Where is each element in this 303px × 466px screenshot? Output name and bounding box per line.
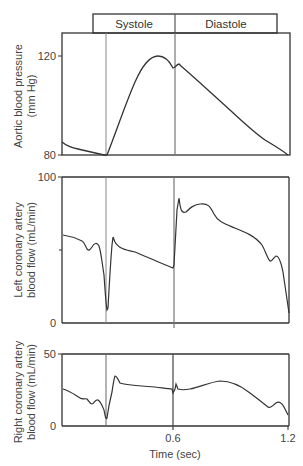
svg-text:(mm Hg): (mm Hg) [25, 75, 37, 118]
right-coronary-flow-curve [63, 376, 288, 419]
y-tick-label-top: 120 [38, 50, 56, 62]
svg-text:Left coronary artery: Left coronary artery [12, 202, 24, 298]
svg-text:Right coronary artery: Right coronary artery [12, 340, 24, 443]
panel-frame [62, 33, 290, 155]
y-axis-label: Left coronary artery blood flow (mL/min) [12, 202, 37, 298]
y-axis-label: Aortic blood pressure (mm Hg) [12, 44, 37, 148]
left-coronary-flow-panel: 100 0 Left coronary artery blood flow (m… [12, 171, 289, 329]
y-tick-label-bottom: 0 [50, 420, 56, 432]
left-coronary-flow-curve [63, 198, 289, 313]
svg-text:blood flow (mL/min): blood flow (mL/min) [25, 202, 37, 298]
x-axis-labels: 0.6 1.2 Time (sec) [149, 432, 295, 460]
cardiac-cycle-figure: Systole Diastole 120 80 Aortic blood pre… [0, 0, 303, 466]
x-axis-title: Time (sec) [149, 448, 201, 460]
y-tick-label-bottom: 80 [44, 149, 56, 161]
systole-label: Systole [115, 18, 153, 30]
x-tick-label-mid: 0.6 [165, 432, 180, 444]
aortic-pressure-panel: 120 80 Aortic blood pressure (mm Hg) [12, 33, 290, 161]
y-tick-label-top: 50 [44, 348, 56, 360]
svg-text:blood flow (mL/min): blood flow (mL/min) [25, 344, 37, 440]
phase-header: Systole Diastole [93, 14, 277, 33]
right-coronary-flow-panel: 50 0 Right coronary artery blood flow (m… [12, 340, 289, 443]
y-tick-label-bottom: 0 [50, 317, 56, 329]
y-tick-label-top: 100 [38, 171, 56, 183]
diastole-label: Diastole [205, 18, 247, 30]
svg-text:Aortic blood pressure: Aortic blood pressure [12, 44, 24, 148]
y-axis-label: Right coronary artery blood flow (mL/min… [12, 340, 37, 443]
x-tick-label-end: 1.2 [280, 432, 295, 444]
